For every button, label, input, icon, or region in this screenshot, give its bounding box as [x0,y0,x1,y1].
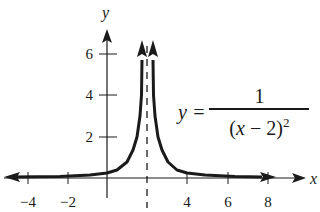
den-var: x [236,116,245,138]
x-tick-label: 4 [183,194,191,210]
den-rest: − 2) [245,116,283,138]
y-axis-label: y [100,4,110,22]
y-tick-label: 6 [86,46,94,62]
equation-lhs: y = [178,101,205,124]
x-tick-label: 6 [224,194,232,210]
equation-label: y = 1 (x − 2)2 [178,85,309,139]
left-branch-arrow-icon [137,40,147,57]
y-tick-label: 2 [86,129,94,145]
equation-fraction: 1 (x − 2)2 [209,85,309,139]
curve-left-branch [12,60,142,177]
x-tick-label: 8 [264,194,272,210]
x-axis-label: x [309,170,317,187]
y-ticks [99,54,117,137]
den-exponent: 2 [283,115,290,130]
y-tick-label: 4 [86,87,94,103]
x-tick-label: −4 [20,194,36,210]
x-tick-label: −2 [60,194,76,210]
right-branch-arrow-icon [148,40,158,57]
equation-numerator: 1 [254,85,264,107]
fraction-bar [209,108,309,110]
equation-denominator: (x − 2)2 [229,111,289,140]
